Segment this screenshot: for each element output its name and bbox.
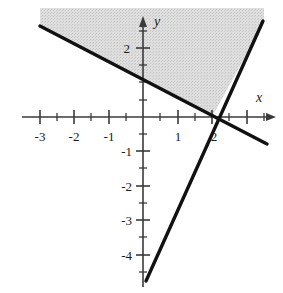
- x-axis: [22, 113, 276, 121]
- x-tick-label-2: 2: [211, 129, 218, 144]
- shaded-region: [40, 8, 264, 117]
- coordinate-plane: -3 -2 -1 1 2 2 -1 -2 -3 -4 x y: [0, 0, 283, 293]
- y-tick-label-2: 2: [124, 41, 131, 56]
- x-axis-label: x: [255, 90, 263, 105]
- y-tick-label-neg1: -1: [121, 144, 132, 159]
- y-axis-label: y: [152, 14, 161, 29]
- y-tick-label-neg4: -4: [121, 248, 132, 263]
- x-tick-label-neg2: -2: [69, 129, 80, 144]
- x-tick-label-neg3: -3: [35, 129, 46, 144]
- graph-figure: -3 -2 -1 1 2 2 -1 -2 -3 -4 x y: [0, 0, 283, 293]
- y-tick-label-neg3: -3: [121, 213, 132, 228]
- x-tick-label-neg1: -1: [104, 129, 115, 144]
- x-tick-label-1: 1: [175, 129, 182, 144]
- y-tick-label-neg2: -2: [121, 179, 132, 194]
